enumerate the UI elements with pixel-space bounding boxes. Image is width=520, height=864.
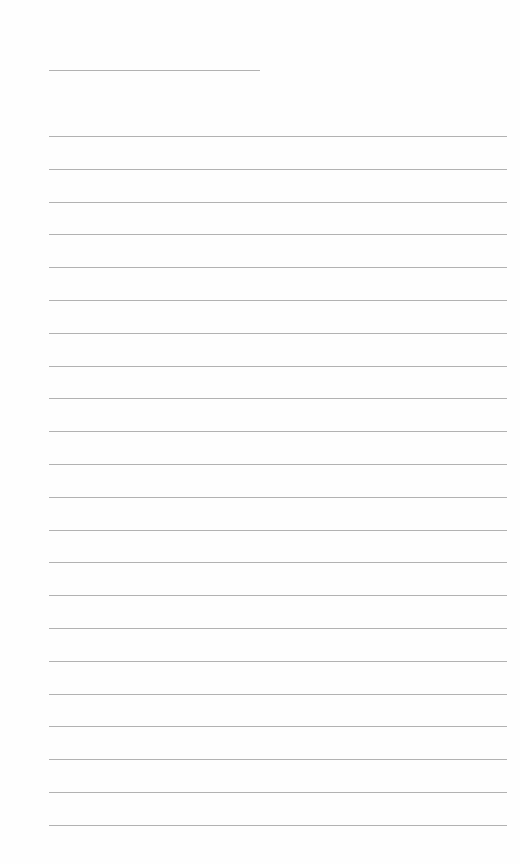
writing-line xyxy=(49,169,507,170)
writing-line xyxy=(49,464,507,465)
writing-line xyxy=(49,661,507,662)
writing-line xyxy=(49,694,507,695)
writing-line xyxy=(49,497,507,498)
writing-line xyxy=(49,267,507,268)
writing-line xyxy=(49,366,507,367)
writing-line xyxy=(49,234,507,235)
writing-line xyxy=(49,595,507,596)
writing-line xyxy=(49,792,507,793)
lined-page xyxy=(0,0,520,864)
writing-line xyxy=(49,202,507,203)
writing-line xyxy=(49,136,507,137)
title-line xyxy=(49,70,260,71)
writing-line xyxy=(49,759,507,760)
writing-line xyxy=(49,333,507,334)
writing-line xyxy=(49,628,507,629)
writing-line xyxy=(49,530,507,531)
writing-line xyxy=(49,300,507,301)
writing-line xyxy=(49,562,507,563)
writing-line xyxy=(49,726,507,727)
writing-line xyxy=(49,825,507,826)
writing-line xyxy=(49,431,507,432)
writing-line xyxy=(49,398,507,399)
